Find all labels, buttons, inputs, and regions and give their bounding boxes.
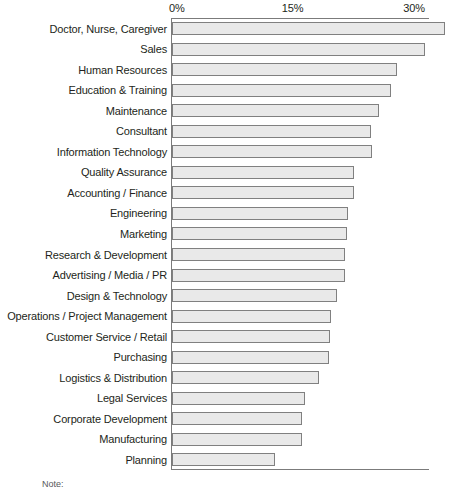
bar-row [171,449,456,470]
bar [172,351,329,364]
bar [172,289,337,302]
y-axis-category-label: Sales [0,43,167,55]
bar-row [171,244,456,265]
bar [172,84,391,97]
bar-row [171,18,456,39]
bar-row [171,347,456,368]
y-axis-category-label: Consultant [0,125,167,137]
bar-row [171,182,456,203]
bar-row [171,59,456,80]
y-axis-category-label: Maintenance [0,105,167,117]
x-axis-tick-2: 30% [403,2,425,14]
y-axis-category-label: Customer Service / Retail [0,331,167,343]
bar [172,125,371,138]
y-axis-category-label: Design & Technology [0,290,167,302]
bar [172,371,319,384]
y-axis-category-label: Logistics & Distribution [0,372,167,384]
bar [172,433,302,446]
y-axis-category-label: Manufacturing [0,433,167,445]
x-axis-tick-labels: 0% 15% 30% [0,0,456,20]
y-axis-category-label: Planning [0,454,167,466]
bar-chart-figure: 0% 15% 30% Doctor, Nurse, CaregiverSales… [0,0,456,488]
bar-row [171,141,456,162]
bar [172,166,354,179]
bar [172,22,445,35]
bar-row [171,80,456,101]
x-axis-tick-0: 0% [169,2,185,14]
bar [172,63,397,76]
bar [172,269,345,282]
footnote-label: Note: [42,479,64,488]
y-axis-category-label: Education & Training [0,84,167,96]
y-axis-category-label: Doctor, Nurse, Caregiver [0,23,167,35]
y-axis-category-label: Advertising / Media / PR [0,269,167,281]
bar-row [171,223,456,244]
bar-row [171,285,456,306]
bar-row [171,367,456,388]
y-axis-category-label: Quality Assurance [0,166,167,178]
bar-row [171,203,456,224]
bar [172,104,379,117]
bar [172,43,425,56]
x-axis-tick-1: 15% [282,2,304,14]
y-axis-category-label: Research & Development [0,249,167,261]
bar-row [171,388,456,409]
bar [172,310,331,323]
bar [172,330,330,343]
bar-row [171,429,456,450]
plot-area [171,18,456,470]
y-axis-category-label: Accounting / Finance [0,187,167,199]
y-axis-category-label: Human Resources [0,64,167,76]
y-axis-category-label: Marketing [0,228,167,240]
y-axis-category-labels: Doctor, Nurse, CaregiverSalesHuman Resou… [0,18,167,470]
bar [172,145,372,158]
bar-row [171,162,456,183]
bar [172,186,354,199]
y-axis-category-label: Legal Services [0,392,167,404]
bar-series [171,18,456,470]
bar [172,207,348,220]
bar [172,412,302,425]
bar-row [171,121,456,142]
bar-row [171,306,456,327]
bar [172,227,347,240]
bar-row [171,326,456,347]
bar [172,248,345,261]
y-axis-category-label: Engineering [0,207,167,219]
bar-row [171,408,456,429]
y-axis-category-label: Information Technology [0,146,167,158]
bar [172,453,275,466]
y-axis-category-label: Corporate Development [0,413,167,425]
y-axis-category-label: Operations / Project Management [0,310,167,322]
bar-row [171,265,456,286]
bar-row [171,100,456,121]
bar [172,392,305,405]
bar-row [171,39,456,60]
y-axis-category-label: Purchasing [0,351,167,363]
